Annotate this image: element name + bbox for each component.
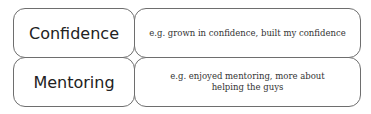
example-text: e.g. enjoyed mentoring, more about helpi… bbox=[160, 71, 335, 93]
example-text-line: helping the guys bbox=[170, 82, 325, 93]
example-box-mentoring: e.g. enjoyed mentoring, more about helpi… bbox=[134, 57, 361, 107]
theme-label: Mentoring bbox=[33, 73, 114, 92]
example-text: e.g. grown in confidence, built my confi… bbox=[139, 28, 356, 39]
example-text-line: e.g. enjoyed mentoring, more about bbox=[170, 71, 325, 82]
theme-box-confidence: Confidence bbox=[13, 8, 135, 58]
theme-label: Confidence bbox=[29, 24, 119, 43]
theme-box-mentoring: Mentoring bbox=[13, 57, 135, 107]
example-box-confidence: e.g. grown in confidence, built my confi… bbox=[134, 8, 361, 58]
